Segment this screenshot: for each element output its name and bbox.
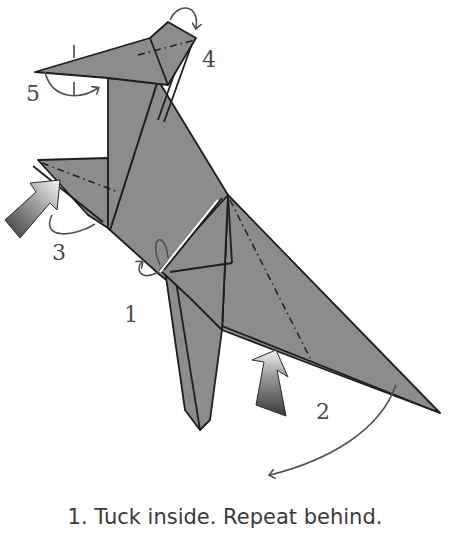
origami-diagram: 1 2 3 4 5 bbox=[0, 0, 450, 533]
step-label-5: 5 bbox=[26, 81, 40, 106]
step-label-2: 2 bbox=[316, 399, 330, 424]
arrow-3-fold-icon bbox=[50, 215, 95, 234]
head bbox=[35, 22, 196, 85]
origami-model bbox=[33, 22, 440, 430]
arrow-2-swing-icon bbox=[270, 385, 396, 475]
step-label-4: 4 bbox=[202, 47, 216, 72]
instruction-caption: 1. Tuck inside. Repeat behind. bbox=[0, 505, 450, 529]
tail-flap bbox=[222, 195, 440, 413]
step-label-1: 1 bbox=[124, 302, 138, 327]
push-arrow-2-icon bbox=[252, 350, 288, 416]
step-label-3: 3 bbox=[52, 240, 66, 265]
